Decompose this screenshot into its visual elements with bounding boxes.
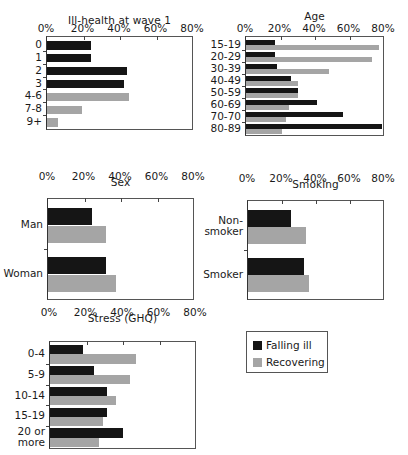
category-label: 50-59: [199, 87, 241, 98]
plot-area: [245, 36, 384, 136]
bar-recovering: [48, 226, 106, 244]
x-tick-label: 0%: [237, 22, 254, 34]
category-label: 15-19: [199, 39, 241, 50]
x-tick-label: 80%: [180, 22, 203, 34]
bar-recovering: [50, 417, 103, 426]
plot-area: [46, 36, 193, 130]
x-axis-tick: [158, 198, 159, 202]
bar-recovering: [246, 81, 298, 86]
legend-label: Recovering: [266, 356, 325, 368]
bar-falling-ill: [246, 76, 291, 81]
recovering-swatch-icon: [253, 358, 262, 367]
bar-falling-ill: [248, 210, 291, 227]
x-tick-label: 60%: [337, 22, 360, 34]
x-axis-tick: [85, 198, 86, 202]
bar-falling-ill: [246, 52, 275, 57]
category-label: 70-70: [199, 111, 241, 122]
y-axis-tick: [242, 50, 245, 51]
x-tick-label: 0%: [41, 306, 58, 318]
bar-recovering: [248, 227, 306, 244]
bar-falling-ill: [47, 67, 127, 75]
y-axis-tick: [43, 115, 46, 116]
x-tick-label: 20%: [72, 170, 95, 182]
x-axis-tick: [87, 341, 88, 345]
bar-falling-ill: [246, 100, 317, 105]
x-tick-label: 60%: [337, 172, 360, 184]
bar-recovering: [48, 275, 116, 293]
category-label: Non- smoker: [193, 215, 243, 237]
y-axis-tick: [46, 385, 49, 386]
x-tick-label: 80%: [371, 22, 394, 34]
bar-recovering: [47, 106, 82, 114]
y-axis-tick: [242, 122, 245, 123]
legend-item-recovering: Recovering: [253, 356, 325, 368]
y-axis-tick: [46, 364, 49, 365]
x-tick-label: 40%: [108, 170, 131, 182]
y-axis-tick: [43, 64, 46, 65]
falling-ill-swatch-icon: [253, 341, 262, 350]
bar-recovering: [47, 93, 129, 101]
bar-recovering: [246, 129, 282, 134]
x-tick-label: 40%: [107, 22, 130, 34]
bar-recovering: [246, 117, 286, 122]
category-label: 1: [0, 52, 42, 63]
x-tick-label: 60%: [145, 170, 168, 182]
x-tick-label: 80%: [371, 172, 394, 184]
y-axis-tick: [43, 77, 46, 78]
x-tick-label: 60%: [144, 22, 167, 34]
category-label: 0-4: [3, 348, 45, 359]
bar-recovering: [246, 57, 372, 62]
bar-falling-ill: [47, 80, 124, 88]
chart-title: Ill-health at wave 1: [46, 14, 193, 26]
x-tick-label: 40%: [303, 172, 326, 184]
category-label: 30-39: [199, 63, 241, 74]
y-axis-tick: [242, 86, 245, 87]
category-label: 3: [0, 78, 42, 89]
bar-falling-ill: [50, 345, 83, 354]
category-label: Smoker: [193, 269, 243, 280]
category-label: 5-9: [3, 369, 45, 380]
x-axis-tick: [123, 341, 124, 345]
category-label: Man: [1, 219, 43, 230]
x-tick-label: 0%: [239, 172, 256, 184]
x-axis-tick: [160, 341, 161, 345]
plot-area: [247, 200, 384, 300]
category-label: 60-69: [199, 99, 241, 110]
x-tick-label: 20%: [71, 22, 94, 34]
chart-title: Sex: [47, 176, 194, 188]
category-label: 40-49: [199, 75, 241, 86]
category-label: 4-6: [0, 90, 42, 101]
y-axis-tick: [242, 74, 245, 75]
legend-item-falling-ill: Falling ill: [253, 339, 312, 351]
chart-ill-health: Ill-health at wave 10%20%40%60%80%01234-…: [0, 0, 408, 455]
bar-recovering: [50, 396, 116, 405]
bar-recovering: [246, 93, 298, 98]
bar-recovering: [50, 375, 130, 384]
x-axis-tick: [157, 36, 158, 40]
bar-falling-ill: [246, 124, 382, 129]
bar-falling-ill: [47, 54, 91, 62]
y-axis-tick: [242, 110, 245, 111]
y-axis-tick: [43, 89, 46, 90]
x-tick-label: 20%: [268, 22, 291, 34]
category-label: 9+: [0, 116, 42, 127]
category-label: 2: [0, 65, 42, 76]
bar-falling-ill: [246, 40, 275, 45]
x-axis-tick: [120, 36, 121, 40]
y-axis-tick: [242, 98, 245, 99]
chart-title: Stress (GHQ): [49, 312, 196, 324]
x-tick-label: 40%: [110, 306, 133, 318]
bar-falling-ill: [50, 387, 107, 396]
x-tick-label: 60%: [147, 306, 170, 318]
x-axis-tick: [121, 198, 122, 202]
chart-sex: Sex0%20%40%60%80%ManWoman: [0, 0, 408, 455]
chart-age: Age0%20%40%60%80%15-1920-2930-3940-4950-…: [0, 0, 408, 455]
bar-falling-ill: [47, 41, 91, 49]
x-tick-label: 20%: [269, 172, 292, 184]
y-axis-tick: [46, 426, 49, 427]
bar-recovering: [248, 275, 309, 292]
y-axis-tick: [43, 51, 46, 52]
x-axis-tick: [316, 200, 317, 204]
x-tick-label: 80%: [183, 306, 206, 318]
y-axis-tick: [242, 62, 245, 63]
